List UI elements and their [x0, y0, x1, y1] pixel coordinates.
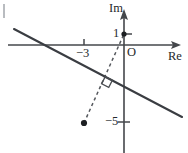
imaginary-axis-label: Im — [109, 2, 123, 15]
right-angle-marker — [102, 77, 113, 88]
origin-label: O — [127, 46, 136, 59]
cropped-bracket-fragment — [3, 4, 5, 18]
tick-label-imag-1: 1 — [113, 27, 119, 40]
perpendicular-bisector-line — [14, 29, 182, 117]
complex-plane-figure: Im Re O 1 −3 −5 — [0, 0, 188, 153]
real-axis-label: Re — [168, 50, 182, 63]
figure-canvas — [0, 0, 188, 153]
point-lower-left — [81, 120, 87, 126]
tick-label-imag-minus5: −5 — [105, 115, 118, 128]
tick-label-real-minus3: −3 — [76, 47, 89, 60]
point-on-imaginary-axis — [121, 31, 126, 36]
